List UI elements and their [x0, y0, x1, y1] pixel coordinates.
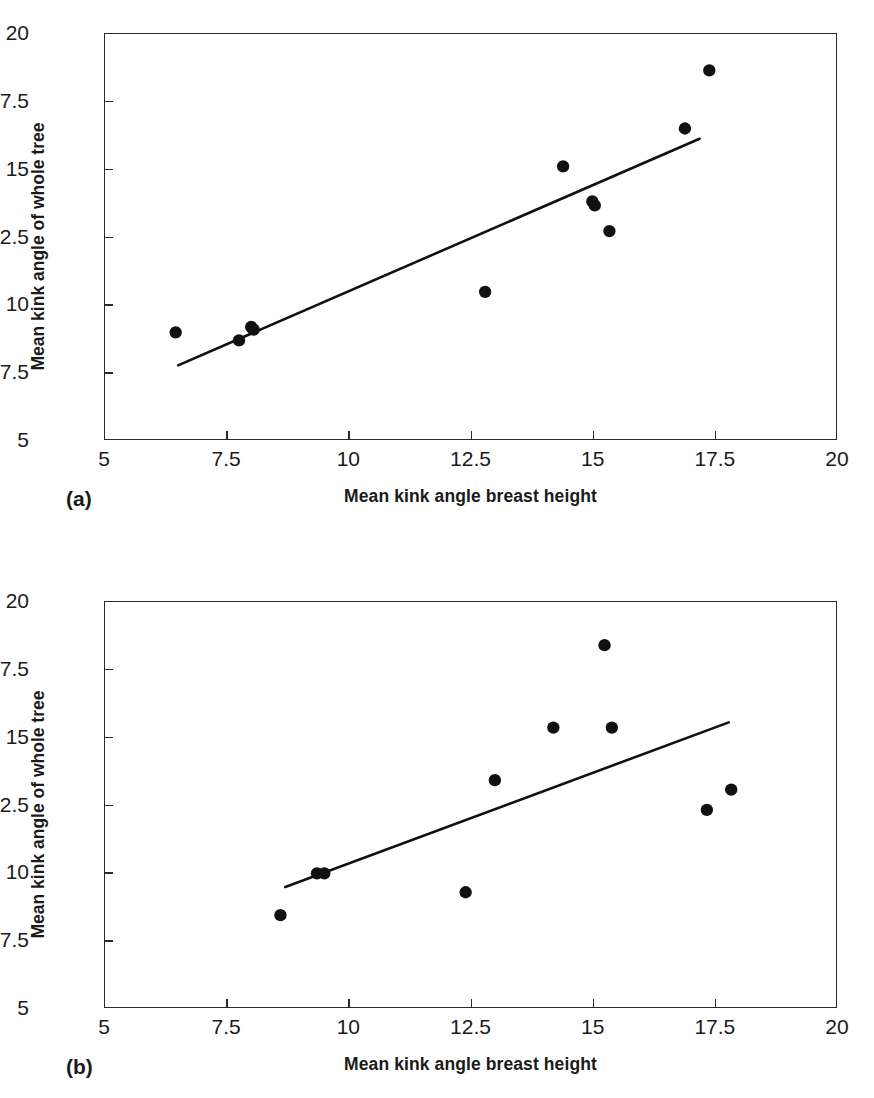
- y-axis-tick: [104, 372, 113, 374]
- y-axis-tick-label: 10: [6, 292, 29, 316]
- x-axis-tick-label: 7.5: [212, 1015, 241, 1039]
- y-axis-tick: [104, 669, 113, 671]
- y-axis-tick-label: 17.5: [0, 89, 29, 113]
- x-axis-tick: [471, 999, 473, 1008]
- plot-area-a: [104, 33, 837, 440]
- x-axis-tick: [593, 431, 595, 440]
- panel-a: Kinktree = 0.7843(Kinkbh) + 2.6299 R2 = …: [0, 0, 874, 530]
- y-axis-tick-label: 20: [6, 21, 29, 45]
- x-axis-tick-label: 17.5: [694, 447, 735, 471]
- x-axis-tick: [226, 431, 228, 440]
- x-axis-tick: [348, 431, 350, 440]
- x-axis-tick-label: 10: [337, 1015, 360, 1039]
- scatter-svg-b: [105, 602, 836, 1007]
- scatter-svg-a: [105, 34, 836, 439]
- x-axis-tick-label: 5: [98, 447, 110, 471]
- y-axis-tick: [104, 805, 113, 807]
- x-axis-tick-label: 12.5: [450, 1015, 491, 1039]
- y-axis-tick: [104, 101, 113, 103]
- y-axis-tick-label: 15: [6, 725, 29, 749]
- y-axis-title-b: Mean kink angle of whole tree: [28, 605, 49, 1025]
- x-axis-tick-label: 15: [581, 1015, 604, 1039]
- y-axis-tick: [104, 737, 113, 739]
- y-axis-tick-label: 15: [6, 157, 29, 181]
- y-axis-tick-label: 20: [6, 589, 29, 613]
- y-axis-tick: [104, 304, 113, 306]
- x-axis-tick: [593, 999, 595, 1008]
- y-axis-tick-label: 12.5: [0, 225, 29, 249]
- y-axis-tick-label: 12.5: [0, 793, 29, 817]
- figure-container: Kinktree = 0.7843(Kinkbh) + 2.6299 R2 = …: [0, 0, 874, 1098]
- y-axis-title-a: Mean kink angle of whole tree: [28, 37, 49, 457]
- x-axis-tick: [715, 431, 717, 440]
- x-axis-tick-label: 15: [581, 447, 604, 471]
- x-axis-tick-label: 20: [825, 447, 848, 471]
- y-axis-tick: [104, 169, 113, 171]
- y-axis-tick-label: 17.5: [0, 657, 29, 681]
- panel-label-a: (a): [66, 487, 92, 511]
- x-axis-tick-label: 7.5: [212, 447, 241, 471]
- x-axis-tick-label: 5: [98, 1015, 110, 1039]
- x-axis-title-a: Mean kink angle breast height: [104, 486, 837, 507]
- x-axis-tick-label: 17.5: [694, 1015, 735, 1039]
- x-axis-tick: [226, 999, 228, 1008]
- y-axis-tick-label: 7.5: [0, 360, 29, 384]
- x-axis-tick: [471, 431, 473, 440]
- x-axis-title-b: Mean kink angle breast height: [104, 1054, 837, 1075]
- panel-b: Kinktree = 0.6702(Kinkbh) + 3.6134 R2 = …: [0, 568, 874, 1098]
- y-axis-tick: [104, 237, 113, 239]
- x-axis-tick-label: 10: [337, 447, 360, 471]
- x-axis-tick: [348, 999, 350, 1008]
- x-axis-tick: [715, 999, 717, 1008]
- x-axis-tick-label: 12.5: [450, 447, 491, 471]
- y-axis-tick: [104, 940, 113, 942]
- x-axis-tick-label: 20: [825, 1015, 848, 1039]
- panel-label-b: (b): [66, 1055, 93, 1079]
- y-axis-tick: [104, 872, 113, 874]
- y-axis-tick-label: 10: [6, 860, 29, 884]
- y-axis-tick-label: 7.5: [0, 928, 29, 952]
- plot-area-b: [104, 601, 837, 1008]
